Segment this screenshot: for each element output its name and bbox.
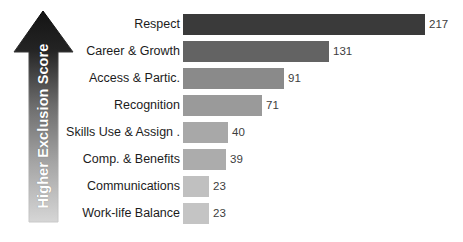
- bar: [183, 149, 226, 170]
- category-label: Skills Use & Assign .: [66, 122, 180, 143]
- bar: [183, 41, 329, 62]
- bar-row: Comp. & Benefits39: [0, 149, 463, 170]
- bar-chart: Higher Exclusion Score Respect217Career …: [0, 0, 463, 242]
- bar-value-label: 71: [266, 95, 279, 116]
- bar-row: Access & Partic.91: [0, 68, 463, 89]
- bar-value-label: 131: [333, 41, 352, 62]
- category-label: Comp. & Benefits: [83, 149, 180, 170]
- bar: [183, 122, 228, 143]
- bar: [183, 14, 425, 35]
- category-label: Access & Partic.: [89, 68, 180, 89]
- plot-area: Respect217Career & Growth131Access & Par…: [0, 0, 463, 242]
- category-label: Career & Growth: [86, 41, 180, 62]
- bar-value-label: 40: [232, 122, 245, 143]
- bar-value-label: 91: [288, 68, 301, 89]
- bar-row: Career & Growth131: [0, 41, 463, 62]
- category-label: Respect: [134, 14, 180, 35]
- bar-value-label: 23: [213, 176, 226, 197]
- bar: [183, 203, 209, 224]
- bar-value-label: 217: [429, 14, 448, 35]
- bar-row: Respect217: [0, 14, 463, 35]
- bar-row: Recognition71: [0, 95, 463, 116]
- bar-value-label: 23: [213, 203, 226, 224]
- bar-row: Communications23: [0, 176, 463, 197]
- bar: [183, 176, 209, 197]
- bar-row: Work-life Balance23: [0, 203, 463, 224]
- bar-value-label: 39: [230, 149, 243, 170]
- category-label: Recognition: [114, 95, 180, 116]
- bar: [183, 68, 284, 89]
- category-label: Work-life Balance: [82, 203, 180, 224]
- category-label: Communications: [87, 176, 180, 197]
- bar-row: Skills Use & Assign .40: [0, 122, 463, 143]
- bar: [183, 95, 262, 116]
